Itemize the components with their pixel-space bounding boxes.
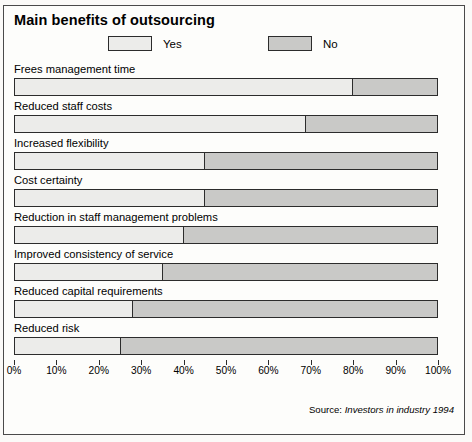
bar-segment-no (205, 190, 437, 206)
chart-bar-row: Reduction in staff management problems (14, 210, 438, 247)
bar-category-label: Reduced risk (14, 321, 438, 337)
axis-tick-label: 40% (173, 365, 193, 376)
chart-bar-row: Frees management time (14, 62, 438, 99)
axis-tick-label: 90% (385, 365, 405, 376)
chart-plot-area: Frees management timeReduced staff costs… (14, 62, 438, 358)
stacked-bar (14, 263, 438, 281)
bar-segment-yes (15, 79, 353, 95)
stacked-bar (14, 300, 438, 318)
legend-swatch-yes (108, 36, 152, 51)
chart-source-note: Source: Investors in industry 1994 (309, 404, 454, 415)
axis-tick-label: 20% (89, 365, 109, 376)
legend-item-no: No (268, 36, 338, 51)
bar-segment-no (184, 227, 437, 243)
stacked-bar (14, 78, 438, 96)
bar-category-label: Reduced capital requirements (14, 284, 438, 300)
bar-segment-yes (15, 264, 163, 280)
chart-bar-row: Increased flexibility (14, 136, 438, 173)
bar-category-label: Cost certainty (14, 173, 438, 189)
source-prefix: Source: (309, 404, 345, 415)
bar-segment-yes (15, 116, 306, 132)
source-citation: Investors in industry 1994 (345, 404, 454, 415)
axis-tick-label: 100% (425, 365, 451, 376)
bar-segment-yes (15, 338, 121, 354)
bar-segment-no (353, 79, 437, 95)
chart-legend: Yes No (14, 36, 444, 56)
bar-segment-no (306, 116, 437, 132)
bar-category-label: Improved consistency of service (14, 247, 438, 263)
legend-label-yes: Yes (163, 38, 182, 50)
stacked-bar (14, 226, 438, 244)
chart-bar-row: Reduced staff costs (14, 99, 438, 136)
bar-category-label: Frees management time (14, 62, 438, 78)
chart-bar-row: Reduced capital requirements (14, 284, 438, 321)
bar-category-label: Increased flexibility (14, 136, 438, 152)
axis-tick-label: 50% (216, 365, 236, 376)
chart-bar-row: Improved consistency of service (14, 247, 438, 284)
axis-tick-label: 60% (258, 365, 278, 376)
legend-label-no: No (323, 38, 338, 50)
chart-bar-row: Cost certainty (14, 173, 438, 210)
legend-swatch-no (268, 36, 312, 51)
axis-tick-label: 80% (343, 365, 363, 376)
bar-category-label: Reduced staff costs (14, 99, 438, 115)
bar-segment-yes (15, 227, 184, 243)
axis-tick-label: 70% (301, 365, 321, 376)
stacked-bar (14, 152, 438, 170)
bar-segment-yes (15, 301, 133, 317)
bar-segment-no (133, 301, 437, 317)
axis-tick-label: 10% (46, 365, 66, 376)
chart-bar-row: Reduced risk (14, 321, 438, 358)
chart-x-axis: 0%10%20%30%40%50%60%70%80%90%100% (14, 360, 438, 382)
bar-segment-no (121, 338, 438, 354)
bar-segment-yes (15, 190, 205, 206)
chart-title: Main benefits of outsourcing (14, 12, 215, 28)
bar-segment-yes (15, 153, 205, 169)
legend-item-yes: Yes (108, 36, 182, 51)
stacked-bar (14, 337, 438, 355)
bar-segment-no (163, 264, 437, 280)
bar-category-label: Reduction in staff management problems (14, 210, 438, 226)
stacked-bar (14, 115, 438, 133)
chart-figure: Main benefits of outsourcing Yes No Free… (0, 0, 472, 442)
axis-tick-label: 0% (7, 365, 22, 376)
stacked-bar (14, 189, 438, 207)
axis-tick-label: 30% (131, 365, 151, 376)
bar-segment-no (205, 153, 437, 169)
